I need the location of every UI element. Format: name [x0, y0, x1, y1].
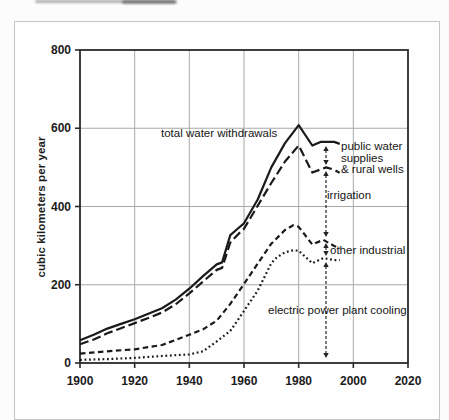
annotation-public-line: public water: [341, 141, 404, 153]
x-tick-label: 1980: [285, 374, 312, 388]
x-tick-label: 1900: [67, 374, 94, 388]
arrowhead-up-icon: [323, 171, 328, 176]
y-tick-label: 0: [64, 356, 71, 370]
arrowhead-up-icon: [323, 146, 328, 151]
arrowhead-down-icon: [323, 160, 328, 165]
y-tick-label: 800: [51, 43, 71, 57]
annotation-total: total water withdrawals: [161, 128, 277, 140]
x-tick-label: 1920: [121, 374, 148, 388]
arrowhead-up-icon: [323, 262, 328, 267]
arrowhead-down-icon: [323, 232, 328, 237]
x-tick-label: 1960: [231, 374, 258, 388]
annotation-electric: electric power plant cooling: [268, 305, 407, 317]
annotation-public: public watersupplies& rural wells: [341, 141, 404, 176]
arrowhead-down-icon: [323, 353, 328, 358]
arrowhead-up-icon: [323, 243, 328, 248]
x-tick-label: 2000: [340, 374, 367, 388]
y-tick-label: 400: [51, 200, 71, 214]
x-tick-label: 1940: [176, 374, 203, 388]
annotation-irrigation: irrigation: [327, 190, 371, 202]
annotation-other-industrial: other industrial: [330, 245, 405, 257]
series-medium-dash: [80, 225, 340, 353]
annotation-public-line: & rural wells: [341, 164, 404, 176]
y-axis-title: cubic kilometers per year: [35, 136, 47, 277]
y-tick-label: 200: [51, 278, 71, 292]
x-tick-label: 2020: [395, 374, 422, 388]
y-tick-label: 600: [51, 121, 71, 135]
arrowhead-down-icon: [323, 251, 328, 256]
